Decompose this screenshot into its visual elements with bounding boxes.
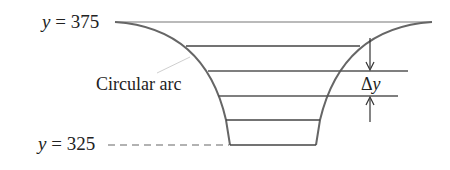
- arc-label-leader: [157, 57, 190, 73]
- delta-y-label: Δy: [361, 74, 381, 94]
- arc-label: Circular arc: [96, 74, 181, 94]
- bottom-level-label: y = 325: [36, 133, 95, 154]
- tank-diagram: y = 375 y = 325 Circular arc Δy: [0, 0, 450, 170]
- top-level-label: y = 375: [40, 11, 99, 32]
